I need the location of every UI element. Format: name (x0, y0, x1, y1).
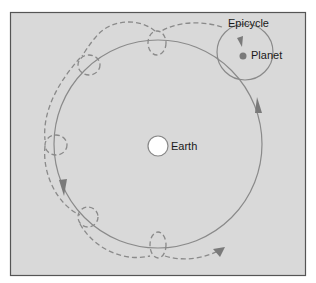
ptolemaic-epicycle-diagram: Epicycle Planet Earth (0, 0, 316, 283)
planet-label: Planet (251, 49, 282, 61)
earth-circle (148, 136, 168, 156)
epicycle-label: Epicycle (228, 17, 269, 29)
earth-label: Earth (171, 140, 197, 152)
planet-dot (240, 53, 247, 60)
